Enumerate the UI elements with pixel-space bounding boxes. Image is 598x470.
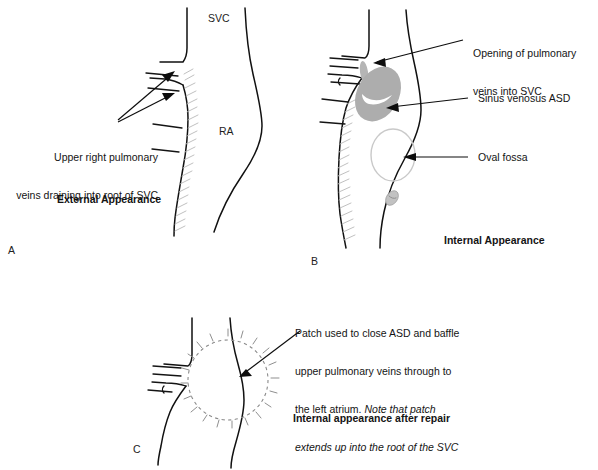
panel-b-atrial-right-contour [380,10,421,248]
figure-root: SVC RA Upper right pulmonary veins drain… [0,0,598,470]
panel-b-leader-asd [391,98,468,107]
panel-c-patch-outline [188,340,268,420]
panel-b-arrowhead-opening [373,58,386,67]
panel-b-oval-fossa [371,129,415,181]
panel-b-vein-stub-5 [320,122,345,124]
panel-b-graphics [320,10,468,248]
panel-b-letter: B [311,255,318,268]
panel-c-letter: C [133,443,141,456]
panel-b-caption: Internal Appearance [444,234,545,247]
panel-a-vein-annotation: Upper right pulmonary veins draining int… [0,126,158,227]
panel-a-svc-label: SVC [208,12,230,25]
panel-a-svc-left-wall [160,8,187,62]
panel-b-opening-annotation: Opening of pulmonary veins into SVC [473,22,576,123]
panel-a-leader-line-lower [118,95,171,122]
panel-b-vein-stub-2 [330,66,358,68]
panel-b-opening-line1: Opening of pulmonary [473,47,576,60]
panel-c-caption: Internal appearance after repair [293,412,450,425]
panel-b-vein-stub-3 [331,82,360,84]
panel-c-patch-line1: Patch used to close ASD and baffle [295,327,595,340]
panel-c-vein-stub-1 [153,366,181,368]
panel-c-patch [181,329,279,428]
panel-c-svc-left-wall [164,318,192,366]
panel-a-ra-label: RA [219,125,234,138]
panel-b-leader-opening [377,40,463,62]
panel-b-vein-small-hook [339,78,341,85]
panel-a-vein-annotation-line1: Upper right pulmonary [0,151,158,164]
panel-a-letter: A [8,244,15,257]
panel-a-arrowhead-lower [162,93,175,101]
panel-c-leader-patch [243,331,300,374]
panel-b-vein-stub-4 [322,99,348,102]
panel-b-arrowhead-fossa [403,153,416,161]
panel-c-atrial-left-contour [158,386,186,465]
panel-b-svc-left-wall [342,10,369,58]
panel-c-vein-stub-2 [153,374,181,376]
panel-b-fossa-label: Oval fossa [478,151,528,164]
panel-c-patch-sutures [181,329,279,428]
panel-c-patch-line2: upper pulmonary veins through to [295,365,595,378]
panel-c-graphics [148,318,300,468]
panel-a-ra-right-wall [214,8,262,232]
panel-b-asd-label: Sinus venosus ASD [478,92,570,105]
panel-b-asd-body [346,59,410,130]
panel-c-patch-annotation: Patch used to close ASD and baffle upper… [295,302,595,470]
panel-b-sinus-venosus-asd [346,59,410,130]
panel-b-vein-root-line [328,74,362,78]
panel-b-vein-stub-1 [330,58,358,60]
panel-c-vein-stub-3 [148,390,172,392]
panel-c-patch-line4: extends up into the root of the SVC [295,441,595,454]
panel-a-caption: External Appearance [57,193,161,206]
panel-a-leader-line-upper [118,74,172,120]
